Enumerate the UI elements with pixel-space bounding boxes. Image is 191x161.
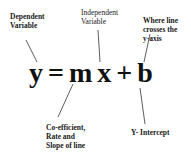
equation-y: y (29, 59, 43, 87)
equation-x: x (97, 59, 111, 87)
label-where-line-crosses: Where line crosses the y-axis (143, 16, 178, 43)
equation-b: b (137, 59, 153, 87)
label-coefficient-slope: Co-efficient, Rate and Slope of line (46, 123, 85, 150)
leader-line-coefficient (58, 84, 73, 117)
equation-equals: = (48, 59, 64, 87)
label-independent-variable: Independent Variable (81, 8, 118, 26)
label-dependent-variable: Dependent Variable (10, 12, 45, 30)
equation-m: m (69, 59, 92, 87)
label-y-intercept: Y- Intercept (131, 128, 170, 137)
leader-line-intercept (140, 88, 145, 124)
equation: y=mx+b (29, 59, 153, 87)
equation-plus: + (116, 59, 132, 87)
